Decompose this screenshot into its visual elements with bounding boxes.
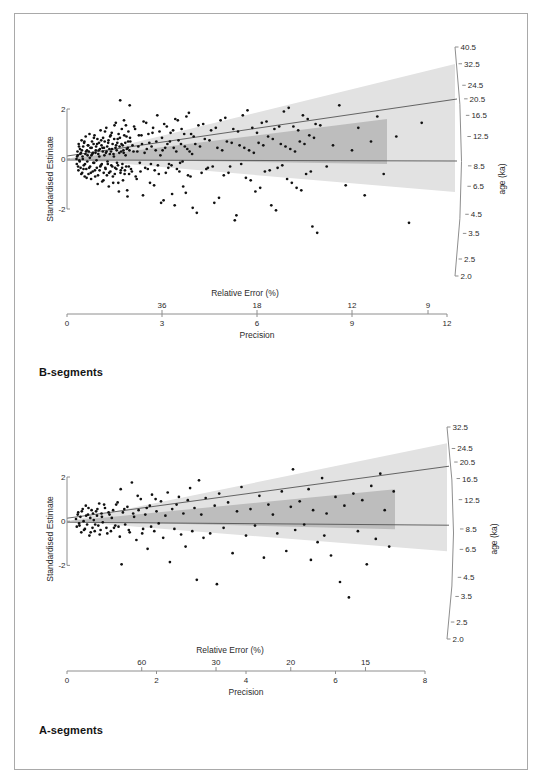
svg-text:0: 0 — [65, 676, 70, 685]
svg-text:32.5: 32.5 — [464, 60, 480, 69]
svg-text:3: 3 — [160, 319, 165, 328]
svg-text:2.0: 2.0 — [461, 272, 473, 281]
svg-text:16.5: 16.5 — [471, 111, 487, 120]
svg-text:12: 12 — [348, 301, 357, 310]
svg-text:age (ka): age (ka) — [489, 523, 499, 554]
radial-plot-b: 20-2Standardised Estimate40.532.524.520.… — [15, 14, 529, 359]
svg-text:4.5: 4.5 — [463, 573, 475, 582]
panel-caption-a: A-segments — [39, 724, 103, 736]
svg-text:36: 36 — [158, 301, 167, 310]
svg-text:6: 6 — [255, 319, 260, 328]
svg-text:40.5: 40.5 — [461, 43, 477, 52]
svg-text:12.5: 12.5 — [473, 132, 489, 141]
panel-a-segments: 20-2Standardised Estimate32.524.520.516.… — [15, 399, 529, 769]
panel-caption-b: B-segments — [39, 366, 103, 378]
svg-text:6: 6 — [333, 676, 338, 685]
svg-text:20.5: 20.5 — [470, 95, 486, 104]
svg-text:30: 30 — [212, 658, 221, 667]
svg-text:Relative Error (%): Relative Error (%) — [211, 288, 279, 298]
svg-text:18: 18 — [253, 301, 262, 310]
svg-text:3.5: 3.5 — [461, 592, 473, 601]
svg-text:2.5: 2.5 — [464, 255, 476, 264]
svg-text:2.0: 2.0 — [453, 635, 465, 644]
svg-text:9: 9 — [426, 301, 431, 310]
svg-text:Precision: Precision — [240, 330, 275, 340]
panel-b-segments: 20-2Standardised Estimate40.532.524.520.… — [15, 14, 529, 399]
svg-text:4: 4 — [244, 676, 249, 685]
svg-text:2: 2 — [61, 105, 66, 114]
svg-text:15: 15 — [361, 658, 370, 667]
radial-plot-a: 20-2Standardised Estimate32.524.520.516.… — [15, 399, 529, 709]
svg-text:12: 12 — [443, 319, 452, 328]
svg-text:12.5: 12.5 — [464, 496, 480, 505]
svg-text:4.5: 4.5 — [471, 210, 483, 219]
svg-text:60: 60 — [137, 658, 146, 667]
svg-text:8: 8 — [423, 676, 428, 685]
svg-text:-2: -2 — [58, 561, 66, 570]
svg-text:Precision: Precision — [229, 687, 264, 697]
svg-text:24.5: 24.5 — [468, 81, 484, 90]
svg-text:Standardised Estimate: Standardised Estimate — [45, 136, 55, 222]
svg-text:2: 2 — [61, 473, 66, 482]
svg-text:32.5: 32.5 — [453, 423, 469, 432]
svg-text:20: 20 — [286, 658, 295, 667]
svg-text:20.5: 20.5 — [460, 458, 476, 467]
svg-text:8.5: 8.5 — [465, 525, 477, 534]
svg-text:3.5: 3.5 — [468, 229, 480, 238]
svg-text:6.5: 6.5 — [465, 545, 477, 554]
svg-text:6.5: 6.5 — [473, 182, 485, 191]
svg-text:24.5: 24.5 — [457, 444, 473, 453]
svg-text:9: 9 — [350, 319, 355, 328]
svg-text:2.5: 2.5 — [456, 618, 468, 627]
svg-text:Relative Error (%): Relative Error (%) — [196, 645, 264, 655]
svg-text:0: 0 — [61, 155, 66, 164]
svg-text:16.5: 16.5 — [462, 475, 478, 484]
svg-text:-2: -2 — [58, 205, 66, 214]
figure-frame: 20-2Standardised Estimate40.532.524.520.… — [14, 13, 528, 770]
svg-text:2: 2 — [154, 676, 159, 685]
svg-text:0: 0 — [65, 319, 70, 328]
svg-text:Standardised Estimate: Standardised Estimate — [45, 496, 55, 582]
svg-text:0: 0 — [61, 517, 66, 526]
svg-text:age (ka): age (ka) — [497, 163, 507, 194]
svg-text:8.5: 8.5 — [473, 162, 485, 171]
